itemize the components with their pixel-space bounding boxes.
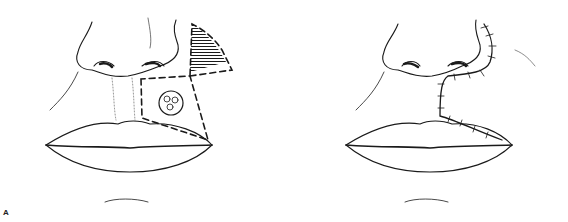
panel-before: A xyxy=(0,0,290,222)
excision-triangle xyxy=(190,24,226,72)
illustration-before xyxy=(0,0,290,222)
panel-after xyxy=(290,0,568,222)
illustration-after xyxy=(290,0,568,222)
figure-label: A xyxy=(3,208,9,217)
